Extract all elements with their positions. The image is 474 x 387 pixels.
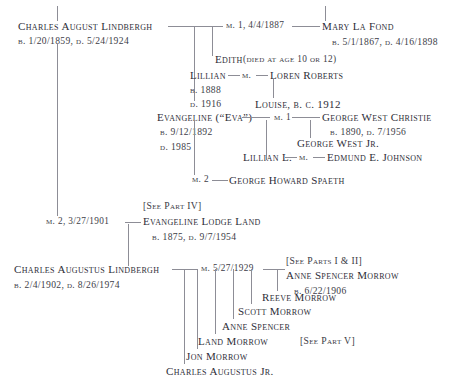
dropline-child-anne xyxy=(233,269,234,319)
person-mary-la-fond: Mary La Fond xyxy=(322,21,394,32)
dates-charles-august-lindbergh: b. 1/20/1859, d. 5/24/1924 xyxy=(18,36,129,46)
marriage-line-left-eva-christie xyxy=(242,117,270,118)
note-edith: (died at age 10 or 12) xyxy=(243,55,337,64)
marriage-line-right-m1 xyxy=(292,26,320,27)
person-reeve-morrow: Reeve Morrow xyxy=(262,292,336,303)
marriage-line-left-charles-anne xyxy=(172,269,198,270)
person-anne-spencer: Anne Spencer xyxy=(222,321,290,332)
person-loren-roberts: Loren Roberts xyxy=(270,70,343,81)
marriage-line-right-charles-anne xyxy=(263,269,285,270)
reference-see-part-iv[interactable]: [See Part IV] xyxy=(143,201,202,211)
dates-evangeline-lodge-land: b. 1875, d. 9/7/1954 xyxy=(152,232,236,242)
marriage-label-lillian-l-edmund: m. xyxy=(299,153,308,162)
person-charles-augustus-jr: Charles Augustus Jr. xyxy=(166,366,274,377)
birth-evangeline-eva: b. 9/12/1892 xyxy=(160,127,213,137)
marriage-line-eva-spaeth xyxy=(212,180,228,181)
dropline-child-charles-jr xyxy=(184,269,185,364)
person-land-morrow: Land Morrow xyxy=(198,336,268,347)
marriage-label-charles-anne: m. 5/27/1929 xyxy=(201,264,254,273)
dropline-child-scott xyxy=(251,269,252,304)
dropline-eva-second-marriage xyxy=(194,120,195,175)
marriage-line-right-lillian-l xyxy=(313,157,325,158)
person-scott-morrow: Scott Morrow xyxy=(238,306,312,317)
ancestry-stub-mary-la-fond xyxy=(325,6,326,21)
marriage-label-charles-evangeline: m. 2, 3/27/1901 xyxy=(46,217,109,226)
marriage-line-left-m1 xyxy=(168,26,223,27)
dropline-to-charles-augustus xyxy=(128,224,129,266)
marriage-label-lillian-loren: m. xyxy=(242,71,251,80)
dates-george-west-christie: b. 1890, d. 7/1956 xyxy=(330,127,406,137)
dropline-child-louise xyxy=(273,78,274,98)
person-lillian: Lillian xyxy=(190,70,226,81)
person-charles-august-lindbergh: Charles August Lindbergh xyxy=(18,21,152,32)
person-jon-morrow: Jon Morrow xyxy=(186,351,248,362)
dropline-child-george-west-jr xyxy=(310,120,311,138)
marriage-line-left-lillian xyxy=(228,75,240,76)
marriage-label-eva-christie: m. 1 xyxy=(274,113,291,122)
person-george-west-christie: George West Christie xyxy=(322,112,432,123)
dates-charles-augustus-lindbergh: b. 2/4/1902, d. 8/26/1974 xyxy=(14,280,120,290)
dropline-child-edith xyxy=(212,26,213,56)
person-edmund-e-johnson: Edmund E. Johnson xyxy=(327,152,422,163)
birth-lillian: b. 1888 xyxy=(190,85,221,95)
death-lillian: d. 1916 xyxy=(190,99,222,109)
dropline-charles-august-second-marriage xyxy=(57,44,58,216)
person-evangeline-eva: Evangeline (“Eva”) xyxy=(157,112,252,123)
dropline-child-reeve xyxy=(277,269,278,291)
person-louise: Louise, b. c. 1912 xyxy=(255,99,341,110)
dates-mary-la-fond: b. 5/1/1867, d. 4/16/1898 xyxy=(332,37,438,47)
reference-see-part-v[interactable]: [See Part V] xyxy=(300,336,355,346)
person-edith: Edith xyxy=(215,54,243,65)
ancestry-stub-charles-august xyxy=(57,6,58,21)
person-charles-augustus-lindbergh: Charles Augustus Lindbergh xyxy=(14,264,159,275)
marriage-line-charles-evangeline xyxy=(125,222,141,223)
marriage-line-left-lillian-l xyxy=(285,157,297,158)
dropline-child-land xyxy=(215,269,216,334)
person-george-howard-spaeth: George Howard Spaeth xyxy=(229,175,345,186)
marriage-line-right-eva-christie xyxy=(292,117,320,118)
death-evangeline-eva: d. 1985 xyxy=(160,142,192,152)
marriage-label-m1-charles-mary: m. 1, 4/4/1887 xyxy=(226,21,284,30)
person-george-west-jr: George West Jr. xyxy=(297,138,379,149)
person-evangeline-lodge-land: Evangeline Lodge Land xyxy=(143,216,261,227)
dropline-child-lillian xyxy=(194,26,195,74)
marriage-line-right-lillian xyxy=(256,75,268,76)
reference-see-parts-i-and-ii[interactable]: [See Parts I & II] xyxy=(286,256,362,266)
genealogy-chart: Charles August Lindbergh b. 1/20/1859, d… xyxy=(0,0,474,387)
person-anne-spencer-morrow: Anne Spencer Morrow xyxy=(286,270,399,281)
marriage-label-eva-spaeth: m. 2 xyxy=(192,175,209,184)
